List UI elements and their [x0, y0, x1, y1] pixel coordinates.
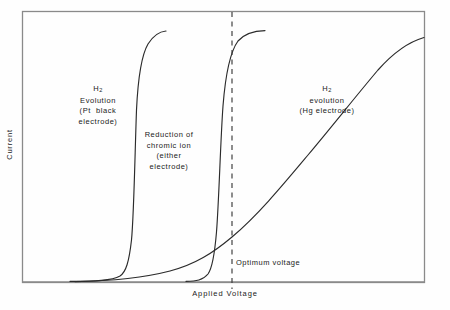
annotation-optimum-voltage: Optimum voltage [236, 258, 300, 269]
y-axis-label: Current [5, 123, 14, 167]
curve-h2-hg [75, 38, 424, 282]
chart-canvas [0, 0, 450, 310]
annotation-h2-hg-line3: (Hg electrode) [299, 106, 354, 115]
annotation-h2-pt-black-line3: (Pt black [80, 106, 117, 115]
annotation-h2-pt-black: H2 Evolution (Pt black electrode) [62, 84, 134, 127]
annotation-chromic-line4: electrode) [150, 162, 189, 171]
annotation-h2-pt-black-line2: Evolution [80, 96, 116, 105]
x-axis-label: Applied Voltage [0, 289, 450, 298]
annotation-chromic-line2: chromic ion [147, 141, 191, 150]
annotation-h2-hg: H2 evolution (Hg electrode) [286, 84, 368, 117]
annotation-h2-pt-black-subscript: 2 [99, 87, 102, 93]
annotation-h2-hg-subscript: 2 [328, 87, 331, 93]
annotation-chromic-line1: Reduction of [145, 130, 194, 139]
figure-container: H2 Evolution (Pt black electrode) Reduct… [0, 0, 450, 310]
annotation-h2-pt-black-line4: electrode) [79, 117, 118, 126]
plot-frame [23, 12, 425, 283]
annotation-chromic-reduction: Reduction of chromic ion (either electro… [132, 130, 206, 172]
annotation-chromic-line3: (either [156, 151, 181, 160]
annotation-h2-hg-line2: evolution [310, 96, 345, 105]
